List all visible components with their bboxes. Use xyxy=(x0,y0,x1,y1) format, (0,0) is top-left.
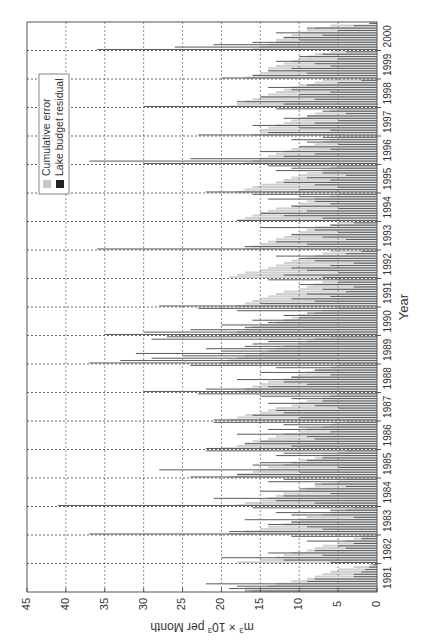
year-tick-label: 1999 xyxy=(382,53,393,76)
bar-lake-budget-residual xyxy=(253,75,377,76)
bar-lake-budget-residual xyxy=(330,92,377,93)
legend-label: Lake budget residual xyxy=(53,79,65,177)
bar-lake-budget-residual xyxy=(253,415,377,416)
bar-lake-budget-residual xyxy=(237,101,377,102)
bar-lake-budget-residual xyxy=(175,47,377,48)
bar-lake-budget-residual xyxy=(276,256,377,257)
bar-lake-budget-residual xyxy=(361,571,377,572)
bar-lake-budget-residual xyxy=(260,462,377,463)
bar-lake-budget-residual xyxy=(245,327,377,328)
y-axis-label: m3 × 103 per Month xyxy=(150,620,253,636)
bar-lake-budget-residual xyxy=(307,294,377,295)
bar-lake-budget-residual xyxy=(346,113,377,114)
bar-lake-budget-residual xyxy=(260,213,377,214)
bar-lake-budget-residual xyxy=(260,303,377,304)
bar-lake-budget-residual xyxy=(183,355,377,356)
bar-lake-budget-residual xyxy=(237,379,377,380)
bar-lake-budget-residual xyxy=(245,519,377,520)
bar-lake-budget-residual xyxy=(330,130,377,131)
bar-lake-budget-residual xyxy=(291,267,377,268)
bar-lake-budget-residual xyxy=(276,500,377,501)
bar-lake-budget-residual xyxy=(291,536,377,537)
bar-lake-budget-residual xyxy=(338,408,377,409)
year-tick-label: 1989 xyxy=(382,338,393,361)
bar-lake-budget-residual xyxy=(268,386,377,387)
bar-lake-budget-residual xyxy=(276,512,377,513)
bar-lake-budget-residual xyxy=(315,123,377,124)
bar-lake-budget-residual xyxy=(299,189,377,190)
bar-lake-budget-residual xyxy=(284,560,377,561)
bar-lake-budget-residual xyxy=(307,28,377,29)
bar-lake-budget-residual xyxy=(237,434,377,435)
bar-lake-budget-residual xyxy=(245,590,377,591)
bar-lake-budget-residual xyxy=(338,272,377,273)
bar-lake-budget-residual xyxy=(291,522,377,523)
bar-lake-budget-residual xyxy=(260,372,377,373)
bar-lake-budget-residual xyxy=(323,172,377,173)
bar-lake-budget-residual xyxy=(245,246,377,247)
value-tick-label: 30 xyxy=(137,598,149,610)
bar-lake-budget-residual xyxy=(268,70,377,71)
bar-lake-budget-residual xyxy=(323,54,377,55)
bar-lake-budget-residual xyxy=(323,400,377,401)
bar-lake-budget-residual xyxy=(291,234,377,235)
bar-lake-budget-residual xyxy=(190,365,377,366)
bar-lake-budget-residual xyxy=(338,467,377,468)
bar-lake-budget-residual xyxy=(268,552,377,553)
bar-lake-budget-residual xyxy=(307,313,377,314)
bar-lake-budget-residual xyxy=(284,424,377,425)
legend-swatch-lake-budget-residual xyxy=(56,180,64,188)
bar-lake-budget-residual xyxy=(237,220,377,221)
bar-lake-budget-residual xyxy=(105,334,377,335)
year-tick-label: 1998 xyxy=(382,82,393,105)
bar-lake-budget-residual xyxy=(299,488,377,489)
bar-lake-budget-residual xyxy=(214,419,377,420)
year-tick-label: 1993 xyxy=(382,224,393,247)
bar-lake-budget-residual xyxy=(354,222,377,223)
bar-lake-budget-residual xyxy=(369,567,377,568)
year-tick-label: 1987 xyxy=(382,395,393,418)
bar-lake-budget-residual xyxy=(330,431,377,432)
bar-lake-budget-residual xyxy=(276,108,377,109)
value-tick-label: 5 xyxy=(331,601,343,607)
bar-lake-budget-residual xyxy=(315,484,377,485)
value-tick-label: 45 xyxy=(20,598,32,610)
bar-lake-budget-residual xyxy=(354,574,377,575)
bar-lake-budget-residual xyxy=(260,396,377,397)
bar-lake-budget-residual xyxy=(330,374,377,375)
bar-lake-budget-residual xyxy=(268,524,377,525)
bar-lake-budget-residual xyxy=(315,184,377,185)
bar-lake-budget-residual xyxy=(237,310,377,311)
bar-lake-budget-residual xyxy=(338,30,377,31)
bar-lake-budget-residual xyxy=(338,82,377,83)
bar-lake-budget-residual xyxy=(338,232,377,233)
bar-lake-budget-residual xyxy=(315,579,377,580)
bar-lake-budget-residual xyxy=(58,505,377,506)
bar-lake-budget-residual xyxy=(268,279,377,280)
bar-lake-budget-residual xyxy=(253,42,377,43)
bar-lake-budget-residual xyxy=(307,526,377,527)
value-tick-label: 40 xyxy=(59,598,71,610)
bar-lake-budget-residual xyxy=(315,301,377,302)
bar-lake-budget-residual xyxy=(299,196,377,197)
bar-lake-budget-residual xyxy=(260,441,377,442)
bar-lake-budget-residual xyxy=(136,353,377,354)
bar-lake-budget-residual xyxy=(307,85,377,86)
bar-lake-budget-residual xyxy=(330,149,377,150)
bar-lake-budget-residual xyxy=(284,118,377,119)
bar-lake-budget-residual xyxy=(89,362,377,363)
bar-lake-budget-residual xyxy=(315,201,377,202)
year-tick-label: 1995 xyxy=(382,167,393,190)
value-tick-label: 10 xyxy=(292,598,304,610)
legend-swatch-cumulative-error xyxy=(43,180,51,188)
bar-lake-budget-residual xyxy=(253,125,377,126)
bar-lake-budget-residual xyxy=(307,177,377,178)
bar-lake-budget-residual xyxy=(365,569,377,570)
bar-lake-budget-residual xyxy=(268,199,377,200)
bar-lake-budget-residual xyxy=(120,360,377,361)
bar-chart-svg: 0510152025303540451981198219831984198519… xyxy=(0,0,423,641)
bar-lake-budget-residual xyxy=(284,479,377,480)
bar-lake-budget-residual xyxy=(330,180,377,181)
bar-lake-budget-residual xyxy=(307,384,377,385)
bar-lake-budget-residual xyxy=(221,324,377,325)
